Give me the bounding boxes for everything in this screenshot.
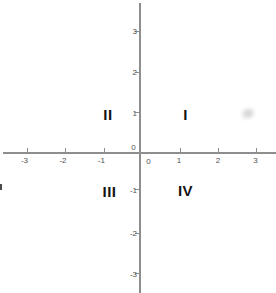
x-tick-label: 2 [216, 156, 220, 165]
x-tick-label: 1 [177, 156, 181, 165]
y-tick-label: -2 [130, 229, 137, 238]
x-tick-label: -2 [59, 156, 66, 165]
quadrant-label-i: I [183, 106, 188, 123]
x-tick [65, 148, 66, 154]
quadrant-label-iv: IV [178, 182, 193, 199]
x-tick [180, 148, 181, 154]
coordinate-plane: -3 -2 -1 1 2 3 0 0 3 2 1 -1 -2 -3 I II I… [0, 0, 276, 293]
x-tick [27, 148, 28, 154]
x-tick-label: -1 [98, 156, 105, 165]
scan-smudge-artifact [238, 105, 257, 123]
x-tick [104, 148, 105, 154]
quadrant-label-ii: II [103, 106, 112, 123]
scan-edge-artifact [0, 184, 2, 190]
y-tick-label: -1 [130, 185, 137, 194]
x-zero-label: 0 [146, 157, 150, 166]
x-tick [218, 148, 219, 154]
y-tick-label: 1 [133, 108, 137, 117]
y-tick-label: -3 [130, 270, 137, 279]
y-tick-label: 3 [133, 27, 137, 36]
quadrant-label-iii: III [102, 183, 116, 200]
y-zero-label: 0 [131, 142, 135, 151]
x-tick [256, 148, 257, 154]
x-tick-label: 3 [253, 156, 257, 165]
y-tick-label: 2 [133, 68, 137, 77]
x-tick-label: -3 [21, 156, 28, 165]
y-axis-line [139, 3, 141, 293]
